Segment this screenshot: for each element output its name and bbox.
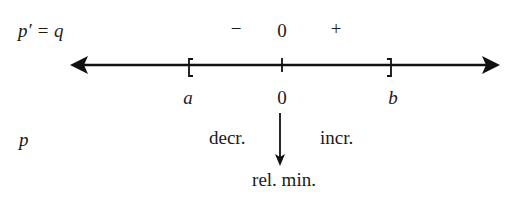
decreasing-label: decr. — [209, 128, 245, 147]
relative-minimum-label: rel. min. — [252, 170, 316, 189]
point-label-b: b — [388, 88, 398, 107]
increasing-label: incr. — [320, 128, 353, 147]
sign-chart-diagram: p′ = q − 0 + a 0 b p decr. incr. rel. mi… — [0, 0, 515, 205]
point-label-a: a — [183, 88, 193, 107]
sign-negative: − — [231, 19, 242, 38]
point-label-zero: 0 — [277, 88, 287, 107]
derivative-row-label: p′ = q — [18, 21, 63, 40]
sign-zero: 0 — [277, 21, 287, 40]
right-bracket-mark — [387, 59, 391, 76]
sign-positive: + — [331, 19, 342, 38]
function-row-label: p — [19, 130, 29, 149]
left-bracket-mark — [189, 59, 193, 76]
